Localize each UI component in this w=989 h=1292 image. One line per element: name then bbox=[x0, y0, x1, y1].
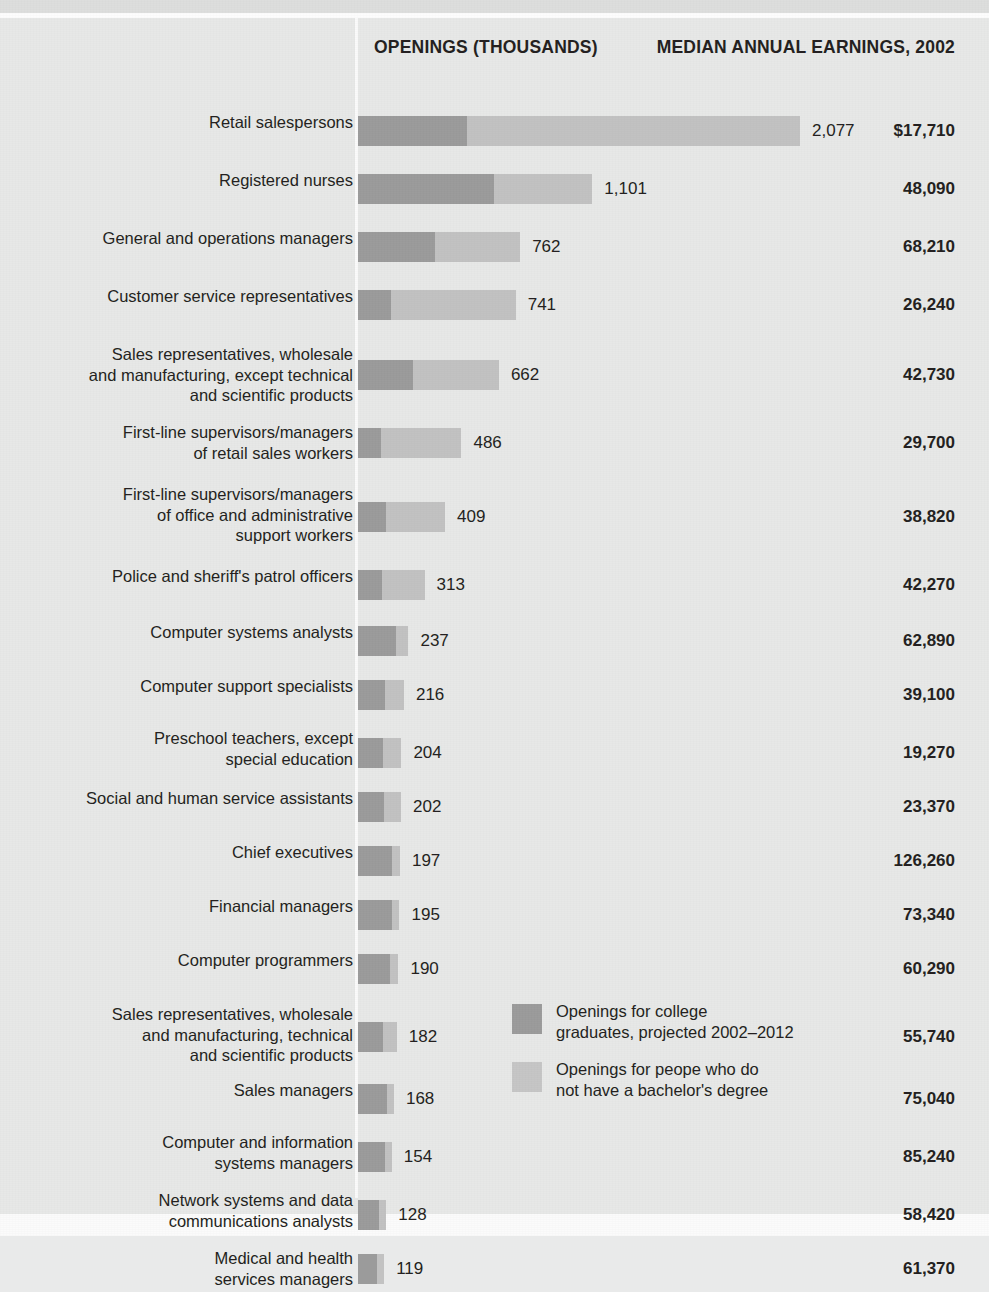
bar-segment-no-bachelors bbox=[385, 680, 404, 710]
category-label: Computer systems analysts bbox=[23, 622, 353, 643]
bar-segment-no-bachelors bbox=[494, 174, 592, 204]
category-label: Computer support specialists bbox=[23, 676, 353, 697]
stacked-bar bbox=[358, 954, 398, 984]
openings-value: 2,077 bbox=[812, 121, 855, 141]
stacked-bar bbox=[358, 1022, 397, 1052]
bar-segment-college-graduates bbox=[358, 846, 392, 876]
chart-row: General and operations managers76268,210 bbox=[0, 222, 989, 280]
openings-column-title: OPENINGS (THOUSANDS) bbox=[374, 36, 598, 58]
chart-row: First-line supervisors/managers of retai… bbox=[0, 416, 989, 478]
category-label: Network systems and data communications … bbox=[23, 1190, 353, 1231]
bar-segment-no-bachelors bbox=[387, 1084, 394, 1114]
openings-value: 216 bbox=[416, 685, 444, 705]
category-label: Financial managers bbox=[23, 896, 353, 917]
openings-value: 195 bbox=[411, 905, 439, 925]
bar-segment-college-graduates bbox=[358, 428, 381, 458]
stacked-bar bbox=[358, 1254, 384, 1284]
openings-value: 486 bbox=[473, 433, 501, 453]
bar-segment-college-graduates bbox=[358, 174, 494, 204]
bar-segment-no-bachelors bbox=[383, 738, 402, 768]
bar-segment-no-bachelors bbox=[384, 792, 401, 822]
chart-row: Computer support specialists21639,100 bbox=[0, 672, 989, 726]
bar-segment-no-bachelors bbox=[385, 1142, 392, 1172]
openings-value: 1,101 bbox=[604, 179, 647, 199]
median-earnings-value: 62,890 bbox=[903, 631, 955, 651]
legend-item: Openings for peope who do not have a bac… bbox=[512, 1060, 912, 1104]
bar-segment-college-graduates bbox=[358, 232, 435, 262]
median-earnings-value: 126,260 bbox=[894, 851, 955, 871]
category-label: General and operations managers bbox=[23, 228, 353, 249]
openings-value: 119 bbox=[396, 1259, 423, 1279]
bar-segment-college-graduates bbox=[358, 360, 413, 390]
chart-header: OPENINGS (THOUSANDS) MEDIAN ANNUAL EARNI… bbox=[0, 36, 989, 96]
stacked-bar bbox=[358, 502, 445, 532]
stacked-bar bbox=[358, 626, 408, 656]
category-label: Medical and health services managers bbox=[23, 1248, 353, 1289]
openings-value: 313 bbox=[437, 575, 465, 595]
category-label: Social and human service assistants bbox=[23, 788, 353, 809]
chart-row: Network systems and data communications … bbox=[0, 1188, 989, 1246]
bar-segment-college-graduates bbox=[358, 1084, 387, 1114]
median-earnings-value: 85,240 bbox=[903, 1147, 955, 1167]
bar-segment-no-bachelors bbox=[413, 360, 499, 390]
stacked-bar bbox=[358, 1142, 392, 1172]
median-earnings-value: 42,730 bbox=[903, 365, 955, 385]
stacked-bar bbox=[358, 360, 499, 390]
bar-segment-no-bachelors bbox=[383, 1022, 397, 1052]
category-label: Customer service representatives bbox=[23, 286, 353, 307]
category-label: Registered nurses bbox=[23, 170, 353, 191]
openings-value: 204 bbox=[413, 743, 441, 763]
median-earnings-value: 61,370 bbox=[903, 1259, 955, 1279]
bar-segment-college-graduates bbox=[358, 570, 382, 600]
bar-segment-no-bachelors bbox=[392, 846, 400, 876]
legend-item: Openings for college graduates, projecte… bbox=[512, 1002, 912, 1046]
openings-value: 190 bbox=[410, 959, 438, 979]
bar-segment-college-graduates bbox=[358, 116, 467, 146]
stacked-bar bbox=[358, 174, 592, 204]
bar-segment-no-bachelors bbox=[390, 954, 399, 984]
median-earnings-value: 19,270 bbox=[903, 743, 955, 763]
median-earnings-value: 60,290 bbox=[903, 959, 955, 979]
chart-row: Financial managers19573,340 bbox=[0, 892, 989, 946]
bar-segment-college-graduates bbox=[358, 1142, 385, 1172]
openings-value: 182 bbox=[409, 1027, 437, 1047]
category-label: Retail salespersons bbox=[23, 112, 353, 133]
stacked-bar bbox=[358, 680, 404, 710]
stacked-bar bbox=[358, 290, 516, 320]
median-earnings-value: 23,370 bbox=[903, 797, 955, 817]
chart-row: Sales representatives, wholesale and man… bbox=[0, 338, 989, 416]
openings-value: 662 bbox=[511, 365, 539, 385]
category-label: First-line supervisors/managers of retai… bbox=[23, 422, 353, 463]
openings-value: 202 bbox=[413, 797, 441, 817]
median-earnings-value: 29,700 bbox=[903, 433, 955, 453]
bar-segment-no-bachelors bbox=[386, 502, 445, 532]
stacked-bar bbox=[358, 232, 520, 262]
chart-row: Chief executives197126,260 bbox=[0, 838, 989, 892]
legend-label: Openings for college graduates, projecte… bbox=[556, 1001, 794, 1043]
stacked-bar bbox=[358, 900, 399, 930]
openings-value: 128 bbox=[398, 1205, 426, 1225]
openings-value: 197 bbox=[412, 851, 440, 871]
bar-segment-no-bachelors bbox=[467, 116, 800, 146]
chart-legend: Openings for college graduates, projecte… bbox=[512, 1002, 912, 1118]
median-earnings-value: 42,270 bbox=[903, 575, 955, 595]
category-label: Computer programmers bbox=[23, 950, 353, 971]
openings-value: 168 bbox=[406, 1089, 434, 1109]
category-label: Computer and information systems manager… bbox=[23, 1132, 353, 1173]
median-earnings-value: 39,100 bbox=[903, 685, 955, 705]
chart-row: First-line supervisors/managers of offic… bbox=[0, 478, 989, 560]
stacked-bar bbox=[358, 738, 401, 768]
median-earnings-value: 48,090 bbox=[903, 179, 955, 199]
bar-segment-college-graduates bbox=[358, 502, 386, 532]
median-earnings-value: 58,420 bbox=[903, 1205, 955, 1225]
category-label: Sales representatives, wholesale and man… bbox=[23, 344, 353, 406]
bar-segment-no-bachelors bbox=[391, 290, 516, 320]
openings-value: 762 bbox=[532, 237, 560, 257]
category-label: First-line supervisors/managers of offic… bbox=[23, 484, 353, 546]
legend-color-swatch bbox=[512, 1062, 542, 1092]
legend-label: Openings for peope who do not have a bac… bbox=[556, 1059, 768, 1101]
category-label: Preschool teachers, except special educa… bbox=[23, 728, 353, 769]
category-label: Chief executives bbox=[23, 842, 353, 863]
stacked-bar bbox=[358, 428, 461, 458]
